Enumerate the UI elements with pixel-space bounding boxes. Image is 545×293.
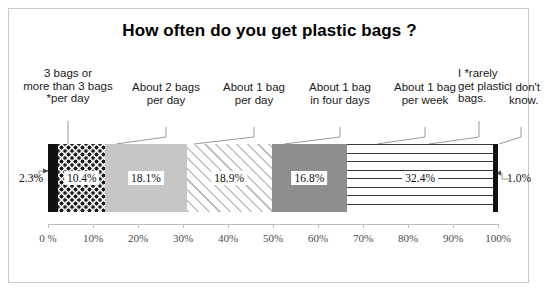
x-tick-label-70: 70%: [353, 232, 373, 244]
bar-segment-2[interactable]: 18.1%: [105, 144, 186, 212]
bar-value-4: 16.8%: [292, 171, 328, 185]
x-tick-label-80: 80%: [398, 232, 418, 244]
x-tick-label-20: 20%: [128, 232, 148, 244]
segment-label-4: About 1 bag per week: [385, 81, 465, 106]
x-tick-label-0: 0 %: [39, 232, 56, 244]
x-tick-label-60: 60%: [308, 232, 328, 244]
x-tick-50: [273, 224, 274, 228]
bar-value-2: 18.1%: [128, 171, 164, 185]
segment-label-2: About 1 bag per day: [213, 81, 295, 106]
x-tick-40: [228, 224, 229, 228]
bar-value-0: 2.3%: [19, 172, 43, 184]
bar-segment-1[interactable]: 10.4%: [58, 144, 105, 212]
bar-value-3: 18.9%: [211, 171, 247, 185]
chart-figure: How often do you get plastic bags ? 3 ba…: [8, 8, 529, 283]
bar-segment-6[interactable]: [493, 144, 498, 212]
bar-value-1: 10.4%: [64, 171, 100, 185]
bar-segment-5[interactable]: 32.4%: [347, 144, 493, 212]
segment-label-0: 3 bags or more than 3 bags *per day: [15, 67, 121, 105]
x-tick-0: [48, 224, 49, 228]
x-tick-10: [93, 224, 94, 228]
x-tick-label-10: 10%: [83, 232, 103, 244]
x-tick-label-40: 40%: [218, 232, 238, 244]
x-tick-20: [138, 224, 139, 228]
x-tick-label-30: 30%: [173, 232, 193, 244]
bar-segment-4[interactable]: 16.8%: [272, 144, 348, 212]
segment-label-6: I don't know.: [509, 81, 545, 106]
segment-label-band: 3 bags or more than 3 bags *per day Abou…: [9, 67, 530, 129]
stacked-bar: 10.4% 18.1% 18.9% 16.8% 32.4%: [48, 144, 498, 212]
bar-segment-3[interactable]: 18.9%: [187, 144, 272, 212]
x-tick-label-90: 90%: [443, 232, 463, 244]
x-tick-70: [363, 224, 364, 228]
x-tick-100: [498, 224, 499, 228]
x-tick-label-100: 100%: [485, 232, 511, 244]
x-tick-90: [453, 224, 454, 228]
x-tick-30: [183, 224, 184, 228]
x-tick-60: [318, 224, 319, 228]
bar-value-6: 1.0%: [507, 172, 531, 184]
x-tick-80: [408, 224, 409, 228]
x-tick-label-50: 50%: [263, 232, 283, 244]
segment-label-3: About 1 bag in four days: [297, 81, 383, 106]
bar-segment-0[interactable]: [48, 144, 58, 212]
segment-label-1: About 2 bags per day: [123, 81, 209, 106]
bar-value-5: 32.4%: [402, 171, 438, 185]
chart-title: How often do you get plastic bags ?: [9, 21, 530, 41]
